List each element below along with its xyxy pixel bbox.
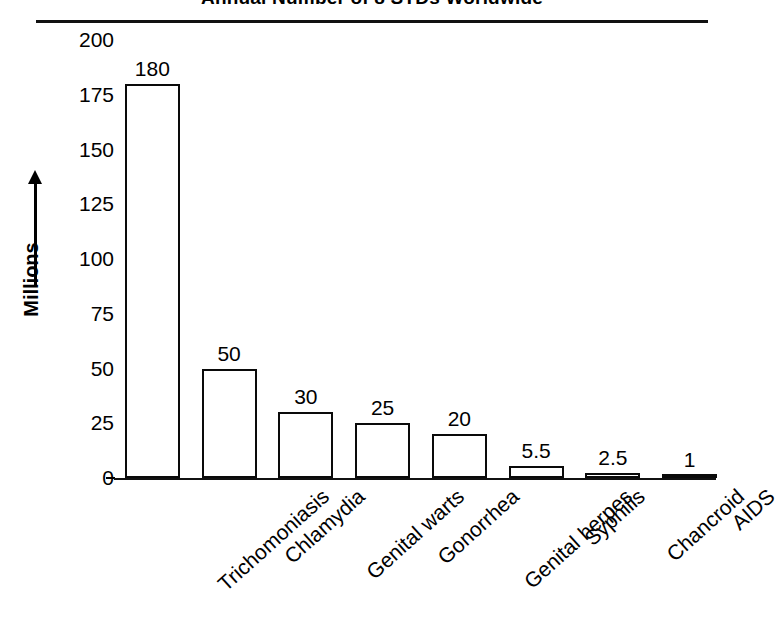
y-tick-label: 75 [58,303,114,324]
bar-value-label: 20 [448,408,471,429]
bar[interactable] [509,466,564,478]
title-divider [36,20,708,23]
bar-slot: 50 [202,40,257,478]
x-axis-category-labels: TrichomoniasisChlamydiaGenital wartsGono… [60,485,728,625]
y-axis-label: Millions [20,195,43,365]
bar-slot: 2.5 [585,40,640,478]
bar[interactable] [278,412,333,478]
bar-slot: 1 [662,40,717,478]
x-axis-line [114,478,716,480]
bar[interactable] [662,474,717,478]
bar-slot: 5.5 [509,40,564,478]
bar-value-label: 25 [371,397,394,418]
bar-value-label: 180 [135,58,170,79]
y-tick-label: 200 [58,29,114,50]
y-tick-label: 150 [58,139,114,160]
bar[interactable] [355,423,410,478]
y-tick-label: 50 [58,358,114,379]
bar-slot: 20 [432,40,487,478]
bar[interactable] [432,434,487,478]
bar-value-label: 30 [294,386,317,407]
bar[interactable] [202,369,257,479]
chart-title: Annual Number of 8 STDs Worldwide [0,0,744,9]
bar-slot: 180 [125,40,180,478]
y-tick-label: 175 [58,84,114,105]
bar[interactable] [125,84,180,478]
y-tick-label: 25 [58,412,114,433]
bar-series: 180503025205.52.51 [114,40,728,478]
bar[interactable] [585,473,640,478]
bar-value-label: 1 [684,449,696,470]
bar-slot: 25 [355,40,410,478]
bar-slot: 30 [278,40,333,478]
y-tick-label: 100 [58,248,114,269]
plot-area: 2001751501251007550250 180503025205.52.5… [60,40,728,485]
y-axis-label-group: Millions [8,180,52,380]
y-tick-label: 125 [58,193,114,214]
bar-value-label: 2.5 [598,447,627,468]
bar-value-label: 5.5 [522,440,551,461]
bar-value-label: 50 [217,343,240,364]
